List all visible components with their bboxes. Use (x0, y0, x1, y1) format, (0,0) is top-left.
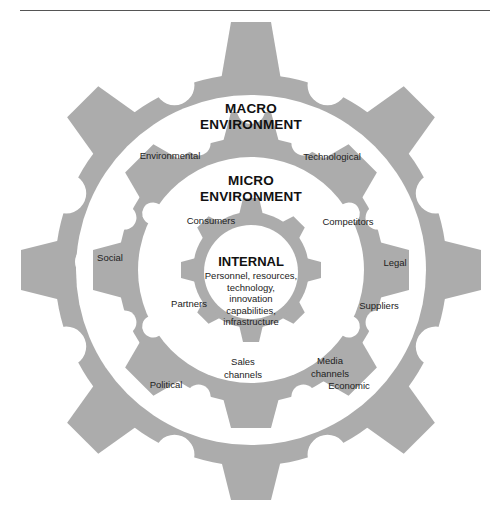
macro-title-line1: MACRO (225, 101, 277, 116)
micro-title-line1: MICRO (228, 173, 274, 188)
internal-line: Personnel, resources, (196, 270, 306, 282)
media-channels-line2: channels (311, 367, 349, 380)
internal-line: technology, (196, 282, 306, 294)
micro-factor-consumers: Consumers (187, 215, 236, 226)
micro-factor-sales-channels: Sales channels (224, 355, 262, 381)
micro-factor-media-channels: Media channels (311, 354, 349, 380)
sales-channels-line2: channels (224, 368, 262, 381)
macro-title-line2: ENVIRONMENT (200, 117, 302, 132)
internal-title: INTERNAL (218, 255, 284, 269)
micro-title-line2: ENVIRONMENT (200, 189, 302, 204)
macro-factor-social: Social (97, 252, 123, 263)
macro-factor-political: Political (150, 379, 183, 390)
internal-description: Personnel, resources, technology, innova… (196, 270, 306, 328)
macro-factor-technological: Technological (303, 151, 361, 162)
internal-line: capabilities, (196, 305, 306, 317)
macro-factor-legal: Legal (383, 257, 406, 268)
media-channels-line1: Media (311, 354, 349, 367)
macro-factor-economic: Economic (328, 380, 370, 391)
internal-line: innovation (196, 293, 306, 305)
macro-factor-environmental: Environmental (140, 150, 201, 161)
sales-channels-line1: Sales (224, 355, 262, 368)
micro-factor-competitors: Competitors (322, 216, 373, 227)
micro-factor-suppliers: Suppliers (359, 300, 399, 311)
internal-line: infrastructure (196, 316, 306, 328)
